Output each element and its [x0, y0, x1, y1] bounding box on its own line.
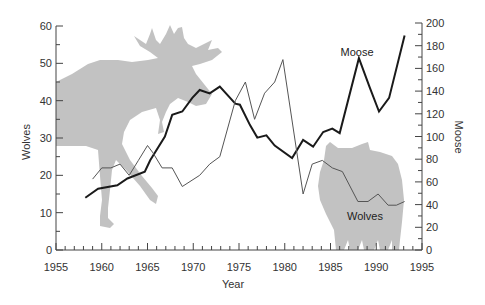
- left-tick-label: 40: [40, 95, 52, 107]
- right-tick-label: 40: [426, 199, 438, 211]
- wolves-series-label: Wolves: [347, 210, 383, 222]
- right-tick-label: 160: [426, 62, 444, 74]
- x-tick-label: 1995: [410, 261, 434, 273]
- right-tick-label: 20: [426, 221, 438, 233]
- right-tick-label: 80: [426, 153, 438, 165]
- wolf-silhouette: [318, 142, 404, 250]
- right-tick-label: 0: [426, 244, 432, 256]
- x-tick-label: 1965: [135, 261, 159, 273]
- right-tick-label: 200: [426, 17, 444, 29]
- x-tick-label: 1975: [227, 261, 251, 273]
- left-axis-title: Wolves: [20, 124, 32, 160]
- left-tick-label: 10: [40, 207, 52, 219]
- x-tick-label: 1955: [44, 261, 68, 273]
- left-tick-label: 0: [46, 244, 52, 256]
- moose-wolves-chart: 1955196019651970197519801985199019950102…: [0, 0, 485, 305]
- x-tick-label: 1985: [318, 261, 342, 273]
- x-tick-label: 1990: [364, 261, 388, 273]
- left-tick-label: 50: [40, 57, 52, 69]
- left-tick-label: 60: [40, 20, 52, 32]
- left-tick-label: 30: [40, 132, 52, 144]
- x-tick-label: 1960: [90, 261, 114, 273]
- right-tick-label: 120: [426, 108, 444, 120]
- right-tick-label: 140: [426, 85, 444, 97]
- right-tick-label: 100: [426, 131, 444, 143]
- moose-series-label: Moose: [340, 46, 373, 58]
- x-tick-label: 1970: [181, 261, 205, 273]
- right-tick-label: 60: [426, 176, 438, 188]
- x-tick-label: 1980: [273, 261, 297, 273]
- right-axis-title: Moose: [453, 120, 465, 153]
- x-axis-title: Year: [222, 278, 245, 290]
- left-tick-label: 20: [40, 169, 52, 181]
- right-tick-label: 180: [426, 40, 444, 52]
- moose-silhouette: [56, 25, 222, 228]
